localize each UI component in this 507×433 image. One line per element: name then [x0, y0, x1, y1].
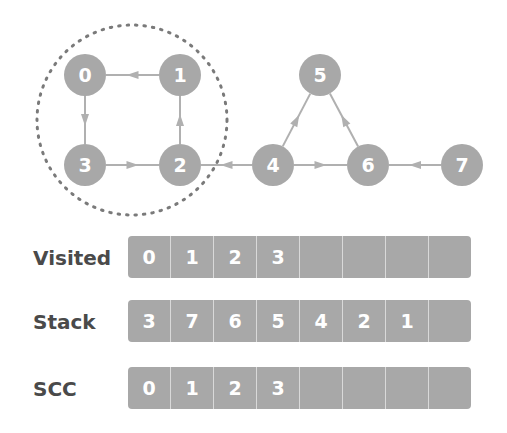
arrowhead-icon — [176, 114, 184, 126]
visited-cell: 0 — [128, 236, 171, 278]
arrowhead-icon — [315, 161, 327, 169]
scc-label: SCC — [33, 367, 77, 411]
stack-cell: 2 — [343, 300, 386, 342]
visited-cell — [429, 236, 471, 278]
stack-cell: 7 — [171, 300, 214, 342]
stack-cell: 1 — [386, 300, 429, 342]
visited-row: Visited 0123 — [0, 236, 507, 280]
arrowhead-icon — [221, 161, 233, 169]
visited-cell: 3 — [257, 236, 300, 278]
node-label: 4 — [266, 154, 279, 176]
stack-cell: 5 — [257, 300, 300, 342]
visited-label: Visited — [33, 236, 111, 280]
stack-row: Stack 3765421 — [0, 300, 507, 344]
scc-cell — [343, 367, 386, 409]
visited-cell — [300, 236, 343, 278]
stack-cell: 4 — [300, 300, 343, 342]
scc-cell — [300, 367, 343, 409]
visited-cell — [386, 236, 429, 278]
scc-cell: 1 — [171, 367, 214, 409]
scc-dotted-circle — [37, 25, 227, 215]
scc-cell: 0 — [128, 367, 171, 409]
scc-array: 0123 — [128, 367, 471, 409]
arrowhead-icon — [341, 115, 350, 127]
arrowhead-icon — [127, 161, 139, 169]
scc-row: SCC 0123 — [0, 367, 507, 411]
node-label: 2 — [173, 154, 186, 176]
stack-cell: 3 — [128, 300, 171, 342]
node-label: 0 — [78, 64, 91, 86]
scc-cell: 2 — [214, 367, 257, 409]
stack-cell: 6 — [214, 300, 257, 342]
arrowhead-icon — [409, 161, 421, 169]
node-label: 6 — [361, 154, 374, 176]
visited-cell: 1 — [171, 236, 214, 278]
stack-array: 3765421 — [128, 300, 471, 342]
visited-cell: 2 — [214, 236, 257, 278]
scc-cell: 3 — [257, 367, 300, 409]
stack-cell — [429, 300, 471, 342]
visited-cell — [343, 236, 386, 278]
scc-cell — [429, 367, 471, 409]
visited-array: 0123 — [128, 236, 471, 278]
node-label: 5 — [313, 64, 326, 86]
arrowhead-icon — [127, 71, 139, 79]
node-label: 1 — [173, 64, 186, 86]
node-label: 7 — [455, 154, 468, 176]
stack-label: Stack — [33, 300, 96, 344]
graph-diagram: 01234567 — [0, 0, 507, 225]
node-label: 3 — [78, 154, 91, 176]
scc-cell — [386, 367, 429, 409]
arrowhead-icon — [81, 114, 89, 126]
arrowhead-icon — [290, 115, 299, 127]
